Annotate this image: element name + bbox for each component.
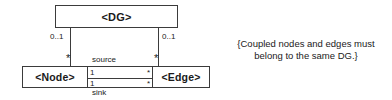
class-name-node: <Node> [35, 71, 75, 83]
multiplicity-node-star: * [66, 54, 70, 62]
class-box-dg[interactable]: <DG> [55, 5, 178, 28]
constraint-note-line-1: {Coupled nodes and edges must [222, 38, 390, 50]
multiplicity-dg-node: 0..1 [50, 32, 63, 41]
class-name-dg: <DG> [101, 11, 131, 23]
multiplicity-edge-star: * [154, 54, 158, 62]
association-role-sink: sink [92, 88, 106, 97]
class-name-edge: <Edge> [161, 71, 200, 83]
association-box-source-sink[interactable]: 1 * 1 * [87, 66, 153, 88]
multiplicity-source-node: 1 [90, 67, 94, 78]
class-box-node[interactable]: <Node> [22, 66, 88, 88]
constraint-note: {Coupled nodes and edges must belong to … [222, 38, 390, 62]
class-box-edge[interactable]: <Edge> [152, 66, 210, 88]
multiplicity-dg-edge: 0..1 [162, 32, 175, 41]
constraint-note-line-2: belong to the same DG.} [222, 50, 390, 62]
uml-diagram-canvas: <DG> 0..1 0..1 * * <Node> 1 * 1 * source… [0, 0, 392, 100]
multiplicity-sink-edge: * [147, 78, 150, 89]
multiplicity-source-edge: * [147, 67, 150, 78]
association-row-source: 1 * [88, 67, 152, 78]
association-role-source: source [92, 55, 116, 64]
